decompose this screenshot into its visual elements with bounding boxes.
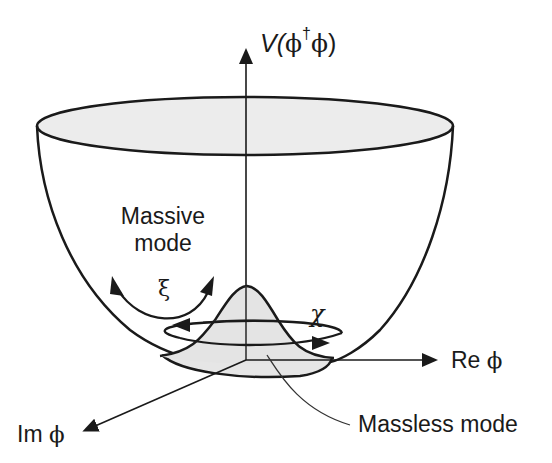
xi-arrowhead-left	[110, 276, 124, 296]
bowl-rim	[37, 97, 453, 155]
potential-diagram	[0, 0, 552, 463]
bowl-right-side	[330, 126, 453, 362]
imaginary-axis-label: Im ϕ	[17, 423, 65, 446]
xi-arrowhead-right	[200, 276, 214, 296]
vertical-axis-label: V(ϕ†ϕ)	[260, 30, 336, 56]
real-axis-label: Re ϕ	[451, 349, 502, 372]
chi-symbol: χ	[310, 302, 325, 326]
xi-symbol: ξ	[158, 278, 170, 300]
imaginary-axis	[86, 360, 246, 430]
massless-mode-label: Massless mode	[358, 413, 518, 436]
massive-mode-label: Massive mode	[118, 205, 208, 255]
